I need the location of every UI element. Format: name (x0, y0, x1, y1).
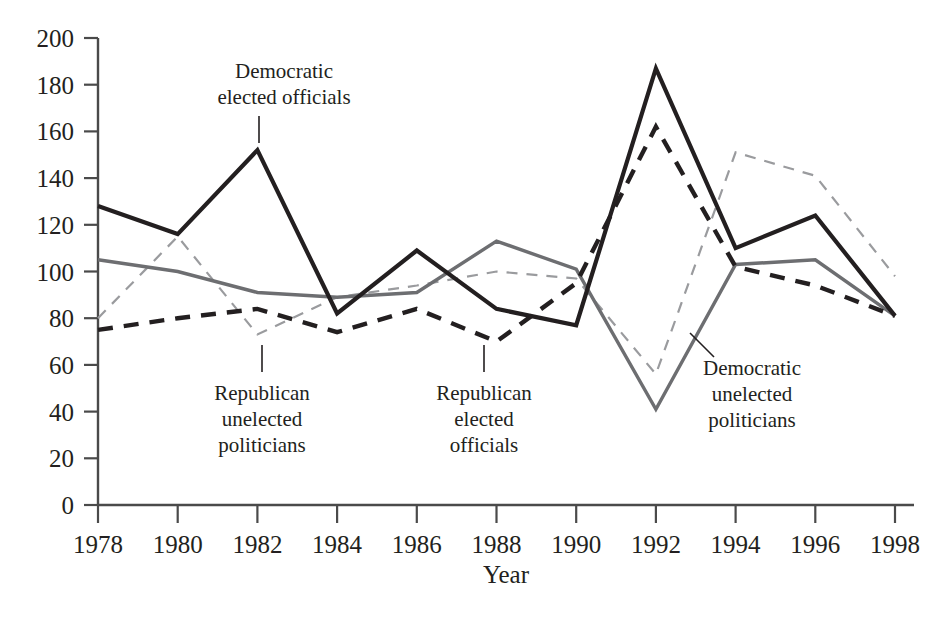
line-chart: 020406080100120140160180200 197819801982… (0, 0, 940, 621)
chart-svg: 020406080100120140160180200 197819801982… (0, 0, 940, 621)
series-annotations: Democraticelected officialsRepublicanune… (214, 59, 801, 457)
y-tick-label: 60 (49, 352, 74, 379)
x-axis-title: Year (483, 561, 530, 588)
x-tick-label: 1986 (392, 531, 442, 558)
annotation-label-republican-unelected-politicians: Republicanunelectedpoliticians (214, 381, 310, 457)
y-axis-ticks (84, 38, 98, 505)
y-tick-label: 160 (37, 118, 75, 145)
y-axis-tick-labels: 020406080100120140160180200 (37, 25, 75, 519)
x-axis-ticks (98, 505, 895, 523)
x-tick-label: 1990 (551, 531, 601, 558)
y-tick-label: 20 (49, 445, 74, 472)
x-tick-label: 1996 (790, 531, 840, 558)
y-tick-label: 80 (49, 305, 74, 332)
x-tick-label: 1998 (870, 531, 920, 558)
x-tick-label: 1978 (73, 531, 123, 558)
y-tick-label: 40 (49, 399, 74, 426)
x-tick-label: 1992 (631, 531, 681, 558)
x-axis-tick-labels: 1978198019821984198619881990199219941996… (73, 531, 920, 558)
x-tick-label: 1988 (472, 531, 522, 558)
y-tick-label: 180 (37, 72, 75, 99)
x-tick-label: 1982 (232, 531, 282, 558)
x-tick-label: 1984 (312, 531, 363, 558)
y-tick-label: 0 (62, 492, 75, 519)
annotation-label-democratic-unelected-politicians: Democraticunelectedpoliticians (703, 356, 801, 432)
y-tick-label: 120 (37, 212, 75, 239)
y-tick-label: 200 (37, 25, 75, 52)
annotation-label-republican-elected-officials: Republicanelectedofficials (436, 381, 532, 457)
x-tick-label: 1994 (711, 531, 762, 558)
x-tick-label: 1980 (153, 531, 203, 558)
y-tick-label: 140 (37, 165, 75, 192)
annotation-label-democratic-elected-officials: Democraticelected officials (217, 59, 350, 109)
annotation-leader-line-democratic-unelected-politicians (690, 333, 714, 357)
y-tick-label: 100 (37, 259, 75, 286)
